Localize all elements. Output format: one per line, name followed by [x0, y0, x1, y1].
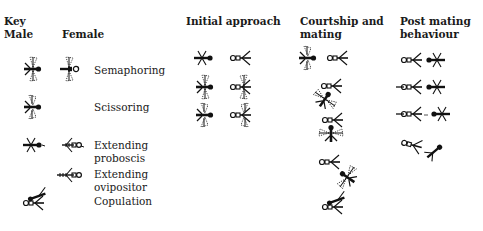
initial-female-scissoring-icon	[241, 115, 242, 116]
courtship-title-2: mating	[300, 28, 342, 41]
male-column-label: Male	[4, 28, 33, 41]
courtship-female-icon-3	[333, 120, 334, 121]
post-pair-departing-icon	[412, 145, 413, 146]
initial-male-scissoring-icon	[205, 115, 206, 116]
courtship-female-icon-4	[330, 162, 331, 163]
post-pair-aligned-icon	[412, 87, 413, 88]
semaphoring-label: Semaphoring	[94, 64, 165, 77]
post-mating-title-1: Post mating	[400, 15, 471, 28]
scissoring-label: Scissoring	[94, 101, 149, 114]
extending-proboscis-label-2: proboscis	[94, 152, 145, 165]
post-pair-adjacent-icon	[412, 60, 413, 61]
female-proboscis-icon	[72, 145, 73, 146]
male-proboscis-icon	[34, 145, 35, 146]
female-ovipositor-icon	[72, 175, 73, 176]
courtship-title-1: Courtship and	[300, 15, 384, 28]
courtship-male-scissoring-icon	[308, 58, 309, 59]
initial-male-semaphoring-icon	[205, 87, 206, 88]
post-pair-separated-icon	[412, 114, 413, 115]
female-column-label: Female	[62, 28, 104, 41]
extending-ovipositor-label-1: Extending	[94, 168, 148, 181]
copulation-label: Copulation	[94, 195, 152, 208]
extending-proboscis-label-1: Extending	[94, 139, 148, 152]
copulation-pair-icon	[36, 200, 37, 201]
courtship-female-icon-2	[332, 86, 333, 87]
female-semaphoring-icon	[69, 69, 70, 70]
courtship-male-tilted-icon	[325, 99, 326, 100]
key-title: Key	[4, 15, 26, 28]
male-scissoring-icon	[33, 107, 34, 108]
courtship-female-plain-icon	[338, 58, 339, 59]
courtship-male-angled-icon	[347, 177, 348, 178]
initial-female-semaphoring-icon	[241, 87, 242, 88]
male-semaphoring-icon	[33, 69, 34, 70]
post-mating-title-2: behaviour	[400, 28, 459, 41]
courtship-male-vertical-icon	[331, 133, 332, 134]
courtship-copulation-icon	[335, 204, 336, 205]
extending-ovipositor-label-2: ovipositor	[94, 181, 147, 194]
initial-female-plain-icon	[241, 58, 242, 59]
initial-approach-title: Initial approach	[186, 15, 281, 28]
initial-male-plain-icon	[205, 58, 206, 59]
